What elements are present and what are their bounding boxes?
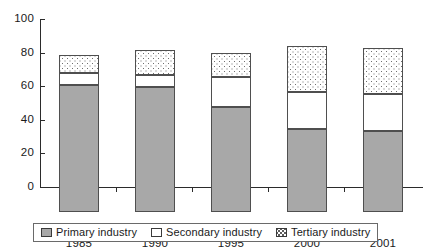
bar-segment-tertiary[interactable]: [287, 46, 327, 92]
legend-label-primary: Primary industry: [56, 227, 137, 238]
legend-swatch-primary-icon: [41, 228, 52, 237]
bar-group-2001: 2001: [363, 24, 403, 212]
stacked-bar[interactable]: [363, 24, 403, 212]
bar-group-1990: 1990: [135, 24, 175, 212]
stacked-bar[interactable]: [59, 24, 99, 212]
bar-segment-primary[interactable]: [287, 129, 327, 212]
bar-group-1985: 1985: [59, 24, 99, 212]
legend-item-tertiary[interactable]: Tertiary industry: [276, 227, 370, 238]
bar-group-2000: 2000: [287, 24, 327, 212]
legend-label-tertiary: Tertiary industry: [291, 227, 370, 238]
stacked-bar[interactable]: [287, 24, 327, 212]
bar-group-1995: 1995: [211, 24, 251, 212]
legend-swatch-secondary-icon: [151, 228, 162, 237]
legend-swatch-tertiary-icon: [276, 228, 287, 237]
bars-layer: 1985 1990 1995: [0, 0, 435, 212]
legend-item-secondary[interactable]: Secondary industry: [151, 227, 262, 238]
stacked-bar[interactable]: [135, 24, 175, 212]
bar-segment-primary[interactable]: [363, 131, 403, 212]
bar-segment-tertiary[interactable]: [211, 53, 251, 77]
bar-segment-secondary[interactable]: [363, 94, 403, 131]
bar-segment-primary[interactable]: [135, 87, 175, 212]
stacked-bar-chart: 100 80 60 40 20 0 1985: [0, 0, 435, 248]
bar-segment-primary[interactable]: [59, 85, 99, 212]
chart-legend: Primary industry Secondary industry Tert…: [33, 223, 378, 242]
stacked-bar[interactable]: [211, 24, 251, 212]
bar-segment-secondary[interactable]: [135, 75, 175, 87]
legend-label-secondary: Secondary industry: [166, 227, 262, 238]
legend-item-primary[interactable]: Primary industry: [41, 227, 137, 238]
bar-segment-tertiary[interactable]: [135, 50, 175, 75]
bar-segment-secondary[interactable]: [59, 73, 99, 85]
bar-segment-secondary[interactable]: [211, 77, 251, 107]
bar-segment-tertiary[interactable]: [59, 55, 99, 73]
bar-segment-secondary[interactable]: [287, 92, 327, 129]
plot-area: 100 80 60 40 20 0 1985: [0, 0, 435, 212]
bar-segment-primary[interactable]: [211, 107, 251, 212]
bar-segment-tertiary[interactable]: [363, 48, 403, 94]
